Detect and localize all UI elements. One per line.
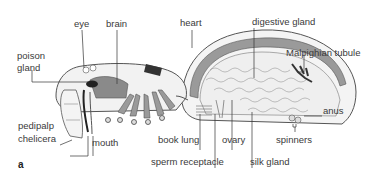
label-digestive-gland: digestive gland bbox=[252, 17, 315, 27]
label-sperm-receptacle: sperm receptacle bbox=[151, 157, 224, 167]
label-poison-gland-line1: poison bbox=[17, 51, 45, 61]
label-brain: brain bbox=[106, 19, 127, 29]
label-pedipalp: pedipalp bbox=[18, 121, 54, 131]
label-chelicera: chelicera bbox=[18, 134, 56, 144]
label-malpighian-tubule: Malpighian tubule bbox=[286, 48, 360, 58]
label-book-lung: book lung bbox=[158, 135, 199, 145]
label-ovary: ovary bbox=[222, 135, 245, 145]
label-silk-gland: silk gland bbox=[250, 157, 290, 167]
panel-label: a bbox=[18, 159, 24, 170]
label-spinners: spinners bbox=[276, 135, 312, 145]
spider-anatomy-diagram: eye brain heart digestive gland Malpighi… bbox=[0, 0, 384, 178]
label-poison-gland-line2: gland bbox=[17, 63, 40, 73]
label-anus: anus bbox=[323, 106, 344, 116]
label-mouth: mouth bbox=[92, 138, 118, 148]
label-eye: eye bbox=[74, 19, 89, 29]
label-heart: heart bbox=[180, 18, 202, 28]
